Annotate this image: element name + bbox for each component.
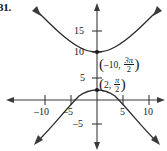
comma: , — [118, 60, 123, 70]
lower-annotation-numerator: π — [114, 76, 120, 84]
upper-vertex-dot — [95, 50, 99, 54]
x-tick-label-10: 10 — [143, 107, 153, 117]
x-axis — [6, 97, 165, 103]
polar-graph-figure: 31. — [0, 0, 167, 151]
upper-annotation-numerator: 3π — [124, 56, 135, 64]
x-tick-label-neg10: –10 — [34, 107, 49, 117]
y-tick-label-10: 10 — [74, 47, 84, 57]
upper-annotation-fraction: 3π 2 — [124, 56, 135, 73]
x-tick-label-neg5: –5 — [63, 107, 73, 117]
upper-vertex-annotation: (–10, 3π 2 ) — [99, 56, 140, 73]
open-paren: ( — [99, 59, 104, 69]
lower-vertex-annotation: (2, π 2 ) — [99, 76, 126, 93]
lower-annotation-fraction: π 2 — [114, 76, 120, 93]
x-axis-arrow-left — [6, 97, 14, 103]
upper-annotation-x: –10 — [104, 60, 118, 70]
y-tick-label-5: 5 — [80, 73, 85, 83]
comma: , — [109, 80, 114, 90]
close-paren: ) — [121, 79, 126, 89]
x-axis-arrow-right — [157, 97, 165, 103]
y-tick-label-15: 15 — [74, 26, 84, 36]
lower-annotation-denominator: 2 — [114, 85, 120, 93]
upper-branch-left-arrow — [32, 6, 41, 16]
y-axis-arrow-down — [94, 142, 100, 150]
y-axis-arrow-up — [94, 3, 100, 11]
x-tick-label-5: 5 — [120, 107, 125, 117]
upper-branch-right-arrow — [153, 6, 162, 16]
close-paren: ) — [135, 59, 140, 69]
upper-annotation-denominator: 2 — [126, 65, 132, 73]
y-tick-label-neg5: –5 — [73, 119, 83, 129]
open-paren: ( — [99, 79, 104, 89]
